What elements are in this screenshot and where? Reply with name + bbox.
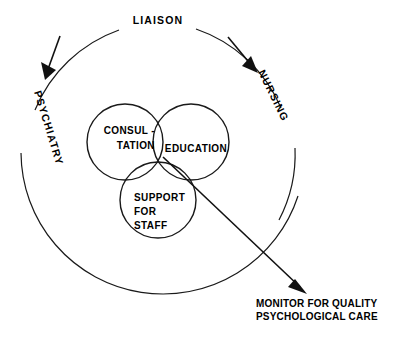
- outcome-arrow-head: [288, 279, 307, 294]
- label-outcome-line1: MONITOR FOR QUALITY: [256, 298, 378, 309]
- nursing-arrow-head: [242, 56, 258, 73]
- label-psychiatry: PSYCHIATRY: [32, 89, 66, 167]
- label-support-line2: FOR: [134, 206, 157, 217]
- label-support-line3: STAFF: [134, 220, 167, 231]
- diagram-canvas: LIAISON PSYCHIATRY NURSING CONSUL - TATI…: [0, 0, 398, 341]
- venn-circle-education: [153, 104, 229, 180]
- label-consultation-line2: TATION: [117, 140, 155, 151]
- label-consultation-line1: CONSUL -: [104, 125, 155, 136]
- label-outcome-line2: PSYCHOLOGICAL CARE: [256, 311, 378, 322]
- label-liaison: LIAISON: [133, 14, 183, 26]
- label-support-line1: SUPPORT: [134, 192, 185, 203]
- label-nursing: NURSING: [256, 68, 291, 124]
- nursing-arrow: [228, 37, 258, 73]
- liaison-diagram: LIAISON PSYCHIATRY NURSING CONSUL - TATI…: [0, 0, 398, 341]
- outcome-arrow: [163, 157, 307, 294]
- label-education: EDUCATION: [165, 143, 227, 154]
